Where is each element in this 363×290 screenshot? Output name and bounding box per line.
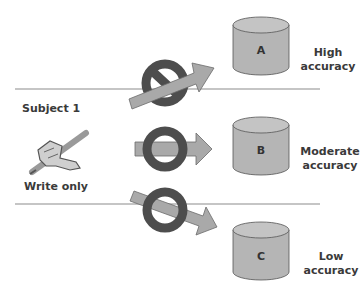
writing-hand-icon bbox=[30, 133, 86, 174]
database-a: A bbox=[233, 17, 289, 75]
flow-to-b bbox=[135, 131, 212, 167]
database-c: C bbox=[233, 222, 289, 280]
accuracy-label-c: Low accuracy bbox=[296, 250, 363, 278]
integrity-write-diagram: A B C Subject 1 Write only High accuracy… bbox=[0, 0, 363, 290]
flow-to-c bbox=[130, 191, 217, 235]
subject-label: Subject 1 bbox=[22, 102, 80, 116]
accuracy-a-line2: accuracy bbox=[293, 60, 363, 74]
access-mode-label: Write only bbox=[24, 180, 88, 194]
accuracy-label-b: Moderate accuracy bbox=[295, 145, 363, 173]
database-c-label: C bbox=[257, 250, 265, 263]
database-b-label: B bbox=[257, 144, 265, 157]
accuracy-c-line2: accuracy bbox=[296, 264, 363, 278]
accuracy-b-line1: Moderate bbox=[295, 145, 363, 159]
accuracy-b-line2: accuracy bbox=[295, 159, 363, 173]
database-b: B bbox=[233, 117, 289, 175]
database-a-label: A bbox=[257, 44, 266, 57]
accuracy-c-line1: Low bbox=[296, 250, 363, 264]
accuracy-a-line1: High bbox=[293, 46, 363, 60]
flow-to-a-blocked bbox=[129, 63, 214, 109]
accuracy-label-a: High accuracy bbox=[293, 46, 363, 74]
